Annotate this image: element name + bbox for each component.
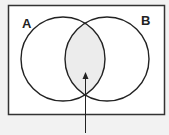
venn-diagram: A B: [0, 0, 169, 135]
set-a-label: A: [22, 16, 32, 31]
set-b-label: B: [141, 13, 150, 28]
